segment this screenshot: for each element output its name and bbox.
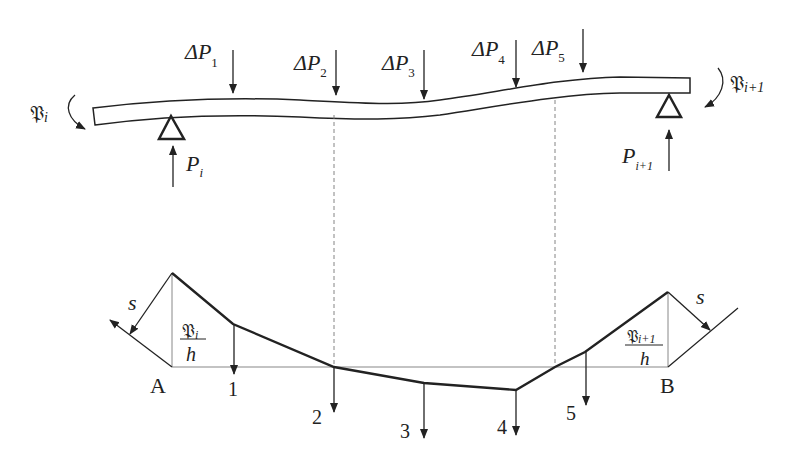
left-s-label: s	[128, 290, 137, 315]
marker-3: 3	[400, 383, 424, 442]
load-1: ΔP1	[184, 39, 233, 93]
right-inclined-line	[668, 308, 738, 367]
load-5: ΔP5	[531, 29, 583, 72]
svg-text:3: 3	[400, 420, 410, 442]
right-support-triangle	[657, 95, 681, 117]
svg-text:h: h	[186, 343, 196, 365]
funicular-polyline	[172, 273, 668, 390]
svg-text:𝔓i+1: 𝔓i+1	[627, 327, 655, 346]
point-A-label: A	[150, 373, 166, 398]
marker-4: 4	[497, 390, 516, 438]
svg-text:4: 4	[497, 416, 507, 438]
right-ratio-label: 𝔓i+1 h	[625, 327, 663, 369]
left-moment-label: 𝔓i	[30, 101, 48, 125]
right-moment-label: 𝔓i+1	[730, 71, 764, 95]
deflected-beam	[93, 77, 690, 125]
point-B-label: B	[660, 373, 675, 398]
beam-group: Pi Pi+1 𝔓i 𝔓i+1 ΔP1 ΔP2 ΔP3 ΔP4 ΔP5	[30, 29, 764, 187]
svg-text:1: 1	[228, 378, 238, 400]
right-moment-arrow	[705, 68, 723, 107]
marker-1: 1	[228, 324, 238, 400]
load-label-4: ΔP4	[471, 36, 505, 67]
load-label-3: ΔP3	[381, 50, 415, 80]
right-reaction-label: Pi+1	[621, 143, 653, 173]
load-4: ΔP4	[471, 36, 516, 87]
svg-text:5: 5	[566, 402, 576, 424]
right-s-label: s	[696, 284, 705, 309]
left-moment-arrow	[68, 95, 85, 129]
left-inclined-line	[110, 320, 172, 367]
marker-5: 5	[566, 351, 586, 424]
load-label-2: ΔP2	[293, 50, 327, 80]
beam-funicular-diagram: Pi Pi+1 𝔓i 𝔓i+1 ΔP1 ΔP2 ΔP3 ΔP4 ΔP5	[0, 0, 806, 456]
left-ratio-label: 𝔓i h	[180, 320, 206, 365]
load-3: ΔP3	[381, 50, 424, 99]
marker-2: 2	[312, 367, 334, 428]
left-reaction-label: Pi	[185, 151, 203, 180]
svg-text:2: 2	[312, 406, 322, 428]
load-label-5: ΔP5	[531, 35, 565, 65]
funicular-group: s s 𝔓i h 𝔓i+1 h A B 1 2 3	[110, 273, 738, 442]
load-2: ΔP2	[293, 50, 336, 95]
svg-text:h: h	[640, 348, 650, 369]
load-label-1: ΔP1	[184, 39, 218, 70]
left-support-triangle	[159, 116, 184, 139]
